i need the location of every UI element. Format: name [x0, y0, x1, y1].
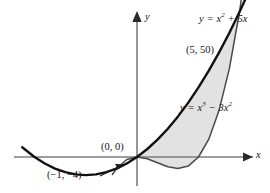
- label-curve-quadratic-tail: + 5x: [225, 13, 248, 24]
- label-axis-y: y: [145, 12, 150, 23]
- label-point-origin: (0, 0): [101, 142, 124, 153]
- x-axis-arrow-icon: [243, 153, 253, 162]
- label-curve-cubic-mid: − 3x: [206, 102, 229, 113]
- figure-canvas: y = x2 + 5x y = x3 − 3x2 (5, 50) (0, 0) …: [0, 0, 270, 193]
- label-point-vertex: (−1, −4): [47, 170, 82, 181]
- label-curve-cubic-exponent2: 2: [229, 100, 233, 108]
- label-curve-cubic: y = x3 − 3x2: [180, 101, 232, 113]
- label-curve-cubic-text: y = x: [180, 102, 202, 113]
- label-axis-x: x: [256, 150, 261, 161]
- label-curve-quadratic-text: y = x: [199, 13, 221, 24]
- label-point-intersection-upper: (5, 50): [186, 45, 214, 56]
- graph-plot: [0, 0, 270, 193]
- label-curve-quadratic: y = x2 + 5x: [199, 12, 248, 24]
- y-axis-arrow-icon: [132, 11, 141, 22]
